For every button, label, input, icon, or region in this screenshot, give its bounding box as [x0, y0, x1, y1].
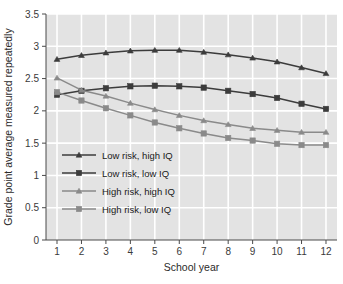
y-axis-tick-label: 0 [33, 235, 39, 246]
line-chart: 00.511.522.533.5123456789101112School ye… [0, 0, 343, 284]
x-axis-tick-label: 8 [225, 246, 231, 257]
data-point-square-marker [226, 88, 231, 93]
data-point-square-marker [152, 83, 157, 88]
data-point-square-marker [201, 131, 206, 136]
y-axis-tick-label: 1 [33, 170, 39, 181]
data-point-square-marker [54, 89, 59, 94]
data-point-square-marker [226, 135, 231, 140]
data-point-square-marker [274, 95, 279, 100]
y-axis-title: Grade point average measured repeatedly [2, 28, 14, 226]
data-point-square-marker [79, 98, 84, 103]
data-point-square-marker [152, 120, 157, 125]
data-point-square-marker [250, 138, 255, 143]
data-point-square-marker [177, 84, 182, 89]
x-axis-tick-label: 4 [128, 246, 134, 257]
x-axis-tick-label: 2 [79, 246, 85, 257]
x-axis-tick-label: 6 [176, 246, 182, 257]
y-axis-tick-label: 0.5 [25, 202, 39, 213]
legend-label: High risk, high IQ [102, 186, 175, 197]
data-point-square-marker [103, 86, 108, 91]
x-axis-tick-label: 3 [103, 246, 109, 257]
legend-label: High risk, low IQ [102, 204, 171, 215]
data-point-square-marker [201, 85, 206, 90]
x-axis-title: School year [164, 261, 220, 273]
y-axis-tick-label: 1.5 [25, 138, 39, 149]
x-axis-tick-label: 12 [320, 246, 332, 257]
legend-label: Low risk, high IQ [102, 150, 173, 161]
data-point-square-marker [299, 142, 304, 147]
data-point-square-marker [323, 142, 328, 147]
data-point-square-marker [177, 126, 182, 131]
x-axis-tick-label: 10 [272, 246, 284, 257]
plot-background [46, 14, 337, 240]
legend-square-marker [76, 206, 81, 211]
y-axis-tick-label: 2 [33, 105, 39, 116]
x-axis-tick-label: 5 [152, 246, 158, 257]
data-point-square-marker [323, 106, 328, 111]
legend-square-marker [76, 170, 81, 175]
chart-figure: 00.511.522.533.5123456789101112School ye… [0, 0, 343, 284]
x-axis-tick-label: 7 [201, 246, 207, 257]
y-axis-tick-label: 3.5 [25, 9, 39, 20]
x-axis-tick-label: 9 [250, 246, 256, 257]
legend-label: Low risk, low IQ [102, 168, 169, 179]
data-point-square-marker [250, 91, 255, 96]
data-point-square-marker [299, 101, 304, 106]
y-axis-tick-label: 3 [33, 41, 39, 52]
y-axis-tick-label: 2.5 [25, 73, 39, 84]
data-point-square-marker [128, 113, 133, 118]
x-axis-tick-label: 1 [54, 246, 60, 257]
data-point-square-marker [128, 84, 133, 89]
data-point-square-marker [103, 106, 108, 111]
x-axis-tick-label: 11 [296, 246, 307, 257]
data-point-square-marker [274, 141, 279, 146]
